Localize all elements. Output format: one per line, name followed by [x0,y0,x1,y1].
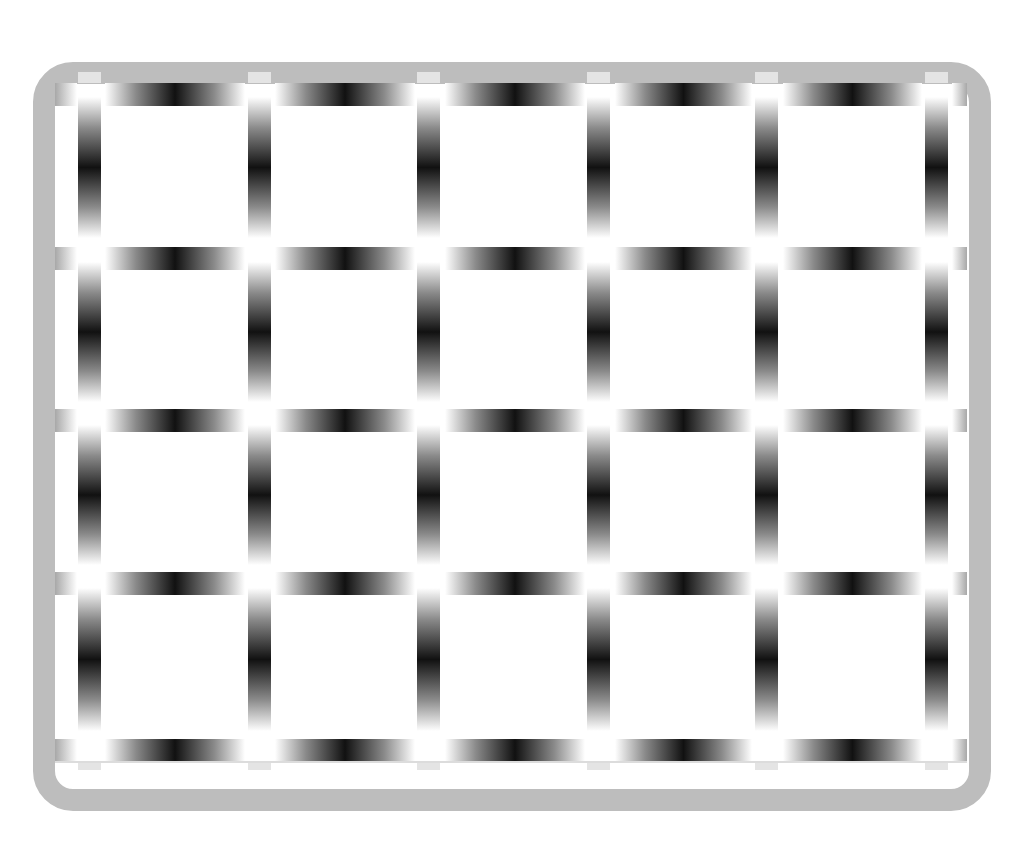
horizontal-gradient-bar [445,739,585,762]
vertical-gradient-bar [925,262,948,402]
vertical-bar-stub [248,72,271,83]
vertical-gradient-bar [417,425,440,565]
horizontal-gradient-bar [445,572,585,595]
vertical-gradient-bar [587,97,610,238]
horizontal-gradient-bar [55,247,77,270]
horizontal-gradient-bar [275,572,415,595]
horizontal-gradient-bar [952,247,967,270]
vertical-bar-stub [587,72,610,83]
vertical-gradient-bar [587,425,610,565]
horizontal-gradient-bar [105,572,245,595]
vertical-gradient-bar [587,262,610,402]
horizontal-gradient-bar [105,739,245,762]
horizontal-gradient-bar [952,572,967,595]
vertical-gradient-bar [925,588,948,731]
horizontal-gradient-bar [55,572,77,595]
gradient-bar-grid [0,0,1019,852]
horizontal-gradient-bar [55,409,77,432]
horizontal-gradient-bar [952,739,967,762]
vertical-gradient-bar [248,588,271,731]
vertical-gradient-bar [755,425,778,565]
vertical-gradient-bar [755,97,778,238]
vertical-gradient-bar [78,588,101,731]
horizontal-gradient-bar [615,409,752,432]
vertical-bar-stub [78,72,101,83]
vertical-gradient-bar [417,97,440,238]
horizontal-gradient-bar [275,247,415,270]
horizontal-gradient-bar [615,739,752,762]
horizontal-gradient-bar [615,572,752,595]
horizontal-gradient-bar [275,739,415,762]
horizontal-gradient-bar [275,409,415,432]
vertical-gradient-bar [755,588,778,731]
vertical-bar-stub [417,762,440,770]
horizontal-gradient-bar [783,572,922,595]
horizontal-gradient-bar [615,83,752,106]
vertical-bar-stub [417,72,440,83]
horizontal-gradient-bar [105,409,245,432]
vertical-gradient-bar [248,262,271,402]
vertical-gradient-bar [417,588,440,731]
bottom-line [55,761,967,763]
horizontal-gradient-bar [783,83,922,106]
vertical-gradient-bar [417,262,440,402]
horizontal-gradient-bar [783,247,922,270]
horizontal-gradient-bar [445,83,585,106]
horizontal-gradient-bar [783,409,922,432]
vertical-gradient-bar [78,97,101,238]
vertical-gradient-bar [925,425,948,565]
horizontal-gradient-bar [783,739,922,762]
horizontal-gradient-bar [105,83,245,106]
vertical-bar-stub [587,762,610,770]
vertical-bar-stub [925,762,948,770]
vertical-bar-stub [755,72,778,83]
horizontal-gradient-bar [55,739,77,762]
vertical-gradient-bar [78,425,101,565]
vertical-gradient-bar [78,262,101,402]
horizontal-gradient-bar [275,83,415,106]
horizontal-gradient-bar [55,83,77,106]
horizontal-gradient-bar [105,247,245,270]
horizontal-gradient-bar [445,247,585,270]
horizontal-gradient-bar [952,409,967,432]
vertical-gradient-bar [248,97,271,238]
horizontal-gradient-bar [615,247,752,270]
vertical-bar-stub [755,762,778,770]
vertical-gradient-bar [925,97,948,238]
vertical-bar-stub [925,72,948,83]
vertical-bar-stub [248,762,271,770]
horizontal-gradient-bar [445,409,585,432]
vertical-gradient-bar [587,588,610,731]
vertical-bar-stub [78,762,101,770]
horizontal-gradient-bar [952,83,967,106]
vertical-gradient-bar [755,262,778,402]
vertical-gradient-bar [248,425,271,565]
